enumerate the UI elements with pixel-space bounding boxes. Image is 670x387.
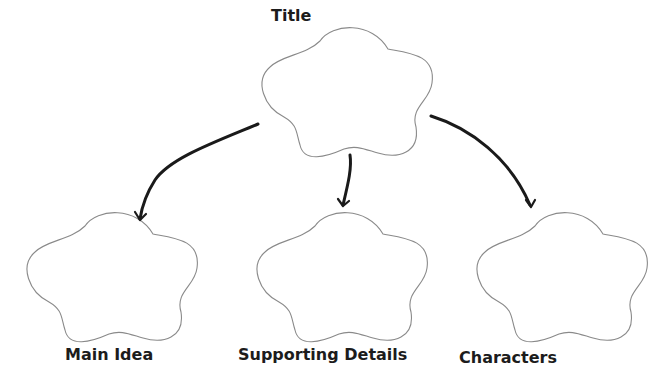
supporting-details-node-cloud [257, 213, 427, 342]
arrow-to-supporting-details [338, 155, 351, 206]
supporting-details-label: Supporting Details [238, 347, 407, 363]
main-idea-label: Main Idea [65, 347, 153, 363]
diagram-canvas [0, 0, 670, 387]
arrow-to-main-idea [135, 124, 258, 220]
characters-node-cloud [477, 213, 647, 342]
arrow-to-characters [431, 116, 535, 207]
root-node-cloud [262, 28, 432, 157]
characters-label: Characters [459, 350, 557, 366]
root-node-label: Title [271, 8, 311, 24]
main-idea-node-cloud [27, 213, 197, 342]
